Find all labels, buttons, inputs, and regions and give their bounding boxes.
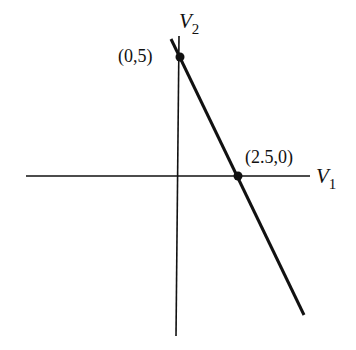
x-axis-label-sub: 1 [329, 176, 337, 192]
y-axis [176, 36, 179, 336]
point-label-0-5: (0,5) [118, 46, 153, 67]
point-2.5-0 [234, 172, 243, 181]
point-label-2.5-0: (2.5,0) [245, 147, 293, 168]
chart: (0,5) (2.5,0) V2 V1 [0, 0, 356, 350]
y-axis-label-sub: 2 [192, 21, 200, 37]
y-axis-label: V2 [179, 9, 199, 37]
point-0-5 [176, 53, 185, 62]
x-axis-label: V1 [316, 164, 336, 192]
